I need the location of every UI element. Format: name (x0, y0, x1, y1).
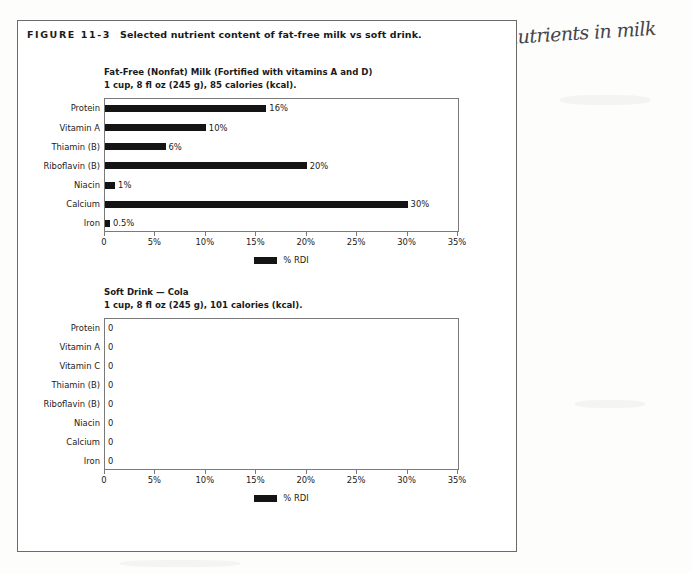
chart-subtitle-milk: 1 cup, 8 fl oz (245 g), 85 calories (kca… (104, 79, 297, 92)
legend-cola: % RDI (104, 494, 459, 502)
bar-value-label: 0 (108, 362, 113, 370)
bar-value-label: 0 (108, 400, 113, 408)
plot-box-milk: Protein16%Vitamin A10%Thiamin (B)6%Ribof… (104, 98, 459, 232)
axis-tick-label: 5% (148, 476, 161, 484)
axis-tick (154, 470, 155, 474)
bar-value-label: 20% (310, 162, 329, 170)
bar (105, 220, 110, 227)
category-label: Niacin (74, 181, 100, 189)
chart-subtitle-cola: 1 cup, 8 fl oz (245 g), 101 calories (kc… (104, 299, 302, 312)
legend-swatch-icon (254, 495, 277, 502)
axis-tick-label: 10% (196, 476, 215, 484)
axis-tick-label: 25% (347, 238, 366, 246)
axis-tick-label: 35% (448, 238, 467, 246)
bar-row: Calcium30% (105, 195, 458, 214)
axis-tick-label: 15% (246, 476, 265, 484)
scanned-page-background: many more nutrients in milk FIGURE 11-3S… (0, 0, 692, 573)
axis-tick-label: 0 (101, 238, 106, 246)
bar-row: Iron0 (105, 452, 458, 471)
axis-tick-label: 10% (196, 238, 215, 246)
category-label: Iron (84, 219, 100, 227)
bar (105, 143, 166, 150)
axis-tick (104, 470, 105, 474)
bar-value-label: 16% (269, 104, 288, 112)
axis-tick (255, 232, 256, 236)
axis-tick (306, 470, 307, 474)
category-label: Iron (84, 457, 100, 465)
bar-value-label: 0 (108, 381, 113, 389)
bar-value-label: 0 (108, 457, 113, 465)
bar-row: Vitamin A0 (105, 338, 458, 357)
bar (105, 124, 206, 131)
bar-row: Vitamin A10% (105, 118, 458, 137)
bar-row: Vitamin C0 (105, 357, 458, 376)
axis-tick (457, 470, 458, 474)
legend-milk: % RDI (104, 256, 459, 264)
axis-tick-label: 35% (448, 476, 467, 484)
bar-value-label: 0 (108, 419, 113, 427)
figure-caption: FIGURE 11-3Selected nutrient content of … (27, 29, 422, 40)
legend-swatch-icon (254, 257, 277, 264)
axis-tick (457, 232, 458, 236)
legend-label-cola: % RDI (283, 494, 308, 502)
axis-tick (356, 232, 357, 236)
axis-tick (407, 232, 408, 236)
bar-row: Niacin1% (105, 176, 458, 195)
axis-tick-label: 30% (397, 476, 416, 484)
plot-box-cola: Protein0Vitamin A0Vitamin C0Thiamin (B)0… (104, 318, 459, 470)
category-label: Riboflavin (B) (43, 162, 100, 170)
category-label: Protein (71, 104, 100, 112)
bar-row: Riboflavin (B)0 (105, 395, 458, 414)
axis-tick-label: 25% (347, 476, 366, 484)
category-label: Vitamin C (59, 362, 100, 370)
axis-tick (407, 470, 408, 474)
x-axis-milk: 05%10%15%20%25%30%35% (104, 232, 459, 252)
bar-value-label: 10% (209, 124, 228, 132)
category-label: Calcium (66, 438, 100, 446)
bar-row: Thiamin (B)6% (105, 137, 458, 156)
bar-row: Calcium0 (105, 433, 458, 452)
bar-value-label: 6% (169, 143, 182, 151)
axis-tick (356, 470, 357, 474)
bar (105, 162, 307, 169)
axis-tick-label: 30% (397, 238, 416, 246)
x-axis-cola: 05%10%15%20%25%30%35% (104, 470, 459, 490)
bar-value-label: 1% (118, 181, 131, 189)
chart-title-milk: Fat-Free (Nonfat) Milk (Fortified with v… (104, 66, 372, 79)
bar-value-label: 0.5% (113, 219, 134, 227)
category-label: Riboflavin (B) (43, 400, 100, 408)
bar (105, 201, 408, 208)
axis-tick-label: 20% (296, 476, 315, 484)
legend-label-milk: % RDI (283, 256, 308, 264)
figure-title: Selected nutrient content of fat-free mi… (120, 29, 422, 40)
axis-tick (154, 232, 155, 236)
category-label: Thiamin (B) (51, 143, 100, 151)
bar (105, 182, 115, 189)
axis-tick-label: 20% (296, 238, 315, 246)
axis-tick (104, 232, 105, 236)
bar-value-label: 0 (108, 438, 113, 446)
axis-tick (205, 470, 206, 474)
axis-tick-label: 5% (148, 238, 161, 246)
figure-frame: FIGURE 11-3Selected nutrient content of … (17, 20, 517, 552)
chart-title-cola: Soft Drink — Cola (104, 286, 189, 299)
bar-row: Riboflavin (B)20% (105, 156, 458, 175)
category-label: Vitamin A (60, 124, 100, 132)
category-label: Protein (71, 324, 100, 332)
axis-tick (255, 470, 256, 474)
category-label: Niacin (74, 419, 100, 427)
bar-row: Thiamin (B)0 (105, 376, 458, 395)
bar-row: Protein0 (105, 319, 458, 338)
bar-row: Niacin0 (105, 414, 458, 433)
figure-number: FIGURE 11-3 (27, 29, 111, 40)
category-label: Thiamin (B) (51, 381, 100, 389)
bar-value-label: 30% (411, 200, 430, 208)
axis-tick-label: 0 (101, 476, 106, 484)
axis-tick (205, 232, 206, 236)
category-label: Vitamin A (60, 343, 100, 351)
bar-row: Iron0.5% (105, 214, 458, 233)
bar-value-label: 0 (108, 324, 113, 332)
axis-tick-label: 15% (246, 238, 265, 246)
bar (105, 105, 266, 112)
bar-value-label: 0 (108, 343, 113, 351)
